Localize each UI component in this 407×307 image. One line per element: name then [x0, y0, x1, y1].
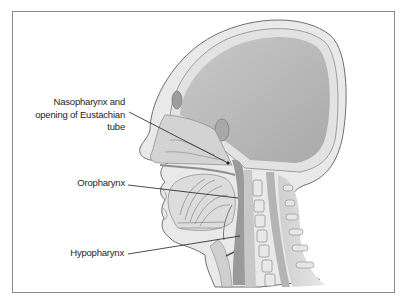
- label-nasopharynx-line3: tube: [35, 121, 125, 134]
- label-hypopharynx-text: Hypopharynx: [70, 247, 124, 260]
- head-neck-illustration: [0, 0, 407, 307]
- frontal-sinus: [172, 91, 182, 109]
- label-oropharynx: Oropharynx: [77, 177, 125, 190]
- label-nasopharynx: Nasopharynx and opening of Eustachian tu…: [35, 96, 125, 134]
- label-nasopharynx-line2: opening of Eustachian: [35, 109, 125, 122]
- label-oropharynx-text: Oropharynx: [77, 177, 125, 190]
- label-nasopharynx-line1: Nasopharynx and: [35, 96, 125, 109]
- label-hypopharynx: Hypopharynx: [70, 247, 124, 260]
